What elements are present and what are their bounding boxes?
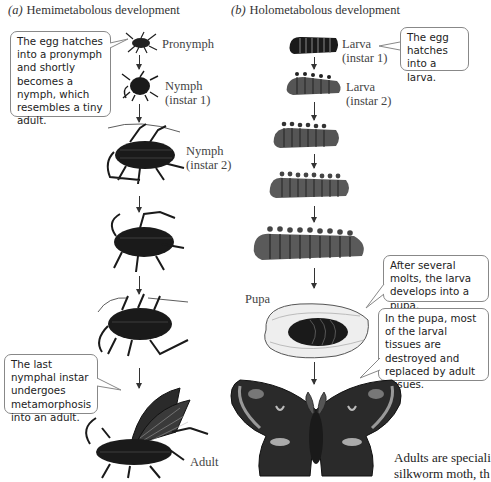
caption-line-1: Adults are speciali bbox=[394, 450, 491, 466]
stage-label-adult: Adult bbox=[190, 455, 218, 469]
arrow-down-icon bbox=[314, 268, 315, 288]
larva-instar5-illustration-icon bbox=[250, 220, 370, 264]
panel-b-title: (b)Holometabolous development bbox=[231, 3, 400, 18]
arrow-down-icon bbox=[139, 55, 140, 69]
panel-a-letter: (a) bbox=[8, 3, 23, 17]
callout-text: After several molts, the larva develops … bbox=[390, 259, 471, 311]
arrow-down-icon bbox=[139, 368, 140, 388]
arrow-down-icon bbox=[314, 57, 315, 69]
pupa-cocoon-illustration-icon bbox=[260, 300, 372, 360]
nymph-instar1-illustration-icon bbox=[120, 70, 160, 102]
larva-instar3-illustration-icon bbox=[270, 118, 342, 150]
panel-b-title-text: Holometabolous development bbox=[250, 3, 400, 17]
larva-instar2-illustration-icon bbox=[283, 69, 345, 97]
panel-b-letter: (b) bbox=[231, 3, 246, 17]
callout-pupa-tissues: In the pupa, most of the larval tissues … bbox=[378, 308, 489, 381]
stage-label-nymph-instar2: Nymph (instar 2) bbox=[186, 144, 231, 172]
panel-a-title: (a)Hemimetabolous development bbox=[8, 3, 180, 18]
arrow-down-icon bbox=[139, 104, 140, 122]
callout-text: The egg hatches into a larva. bbox=[407, 31, 449, 83]
stage-label-nymph-instar1: Nymph (instar 1) bbox=[165, 79, 210, 107]
nymph-instar4-illustration-icon bbox=[88, 292, 198, 372]
callout-larva-hatch: The egg hatches into a larva. bbox=[400, 27, 469, 71]
nymph-instar2-illustration-icon bbox=[100, 122, 190, 194]
pronymph-illustration-icon bbox=[124, 30, 158, 54]
panel-a-title-text: Hemimetabolous development bbox=[27, 3, 180, 17]
caption-line-2: silkworm moth, th bbox=[394, 466, 490, 482]
larva-instar1-illustration-icon bbox=[286, 34, 340, 56]
nymph-instar3-illustration-icon bbox=[100, 208, 190, 274]
callout-text: The egg hatches into a pronymph and shor… bbox=[17, 35, 103, 126]
stage-label-larva-instar2: Larva (instar 2) bbox=[346, 80, 391, 108]
callout-tail-icon bbox=[379, 40, 401, 52]
callout-larva-molts: After several molts, the larva develops … bbox=[383, 255, 489, 302]
callout-pronymph: The egg hatches into a pronymph and shor… bbox=[10, 31, 111, 117]
larva-instar4-illustration-icon bbox=[266, 166, 352, 202]
adult-moth-illustration-icon bbox=[226, 376, 406, 476]
stage-label-pronymph: Pronymph bbox=[162, 37, 214, 51]
